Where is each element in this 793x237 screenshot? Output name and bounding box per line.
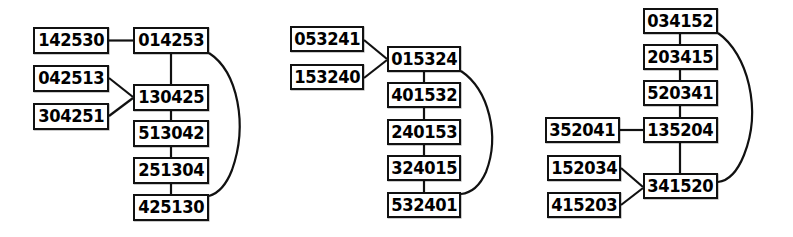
edge-152034-341520 <box>621 168 643 187</box>
node-142530[interactable]: 142530 <box>33 27 109 54</box>
edge-014253-425130-curved <box>209 53 240 196</box>
node-152034[interactable]: 152034 <box>547 155 621 181</box>
permutation-lattice-diagram: 142530 014253 042513 304251 130425 51304… <box>0 0 793 237</box>
node-034152[interactable]: 034152 <box>643 8 718 34</box>
node-label: 532401 <box>391 197 457 214</box>
edge-042513-130425 <box>109 78 133 97</box>
node-label: 251304 <box>138 162 204 179</box>
node-415203[interactable]: 415203 <box>547 192 621 218</box>
node-203415[interactable]: 203415 <box>643 44 718 70</box>
node-label: 425130 <box>138 199 204 216</box>
node-label: 352041 <box>550 122 616 139</box>
node-label: 341520 <box>648 178 714 195</box>
edge-153240-015324 <box>364 60 387 78</box>
edge-304251-130425 <box>109 98 133 116</box>
node-341520[interactable]: 341520 <box>643 173 718 199</box>
edge-034152-341520-curved <box>718 33 752 182</box>
node-label: 130425 <box>138 89 204 106</box>
node-label: 015324 <box>391 51 457 68</box>
node-label: 401532 <box>391 87 457 104</box>
node-label: 520341 <box>648 85 714 102</box>
node-520341[interactable]: 520341 <box>643 80 718 106</box>
node-042513[interactable]: 042513 <box>33 65 109 92</box>
node-304251[interactable]: 304251 <box>33 103 109 130</box>
node-324015[interactable]: 324015 <box>387 155 461 181</box>
node-label: 203415 <box>648 49 714 66</box>
node-label: 142530 <box>38 32 104 49</box>
node-401532[interactable]: 401532 <box>387 82 461 108</box>
node-label: 053241 <box>294 31 360 48</box>
node-label: 415203 <box>551 197 617 214</box>
node-130425[interactable]: 130425 <box>133 84 209 111</box>
node-label: 153240 <box>294 69 360 86</box>
edge-053241-015324 <box>364 40 387 59</box>
node-153240[interactable]: 153240 <box>290 64 364 90</box>
node-label: 152034 <box>551 160 617 177</box>
edge-415203-341520 <box>621 188 643 205</box>
node-135204[interactable]: 135204 <box>643 117 718 143</box>
node-532401[interactable]: 532401 <box>387 192 461 218</box>
edge-015324-532401-curved <box>461 71 492 194</box>
node-label: 014253 <box>138 32 204 49</box>
node-015324[interactable]: 015324 <box>387 46 461 72</box>
node-label: 304251 <box>38 108 104 125</box>
node-513042[interactable]: 513042 <box>133 120 209 147</box>
node-label: 042513 <box>38 70 104 87</box>
node-352041[interactable]: 352041 <box>545 117 620 143</box>
node-251304[interactable]: 251304 <box>133 157 209 184</box>
node-240153[interactable]: 240153 <box>387 119 461 145</box>
node-label: 513042 <box>138 125 204 142</box>
node-053241[interactable]: 053241 <box>290 26 364 52</box>
node-label: 324015 <box>391 160 457 177</box>
node-425130[interactable]: 425130 <box>133 194 209 221</box>
node-label: 034152 <box>648 13 714 30</box>
node-label: 240153 <box>391 124 457 141</box>
node-014253[interactable]: 014253 <box>133 27 209 54</box>
node-label: 135204 <box>648 122 714 139</box>
